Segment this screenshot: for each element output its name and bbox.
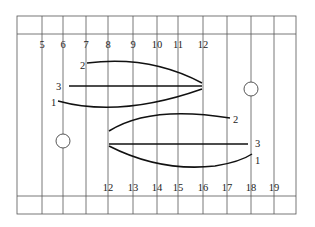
top-label: 7 [83,39,88,50]
lower-curve-2 [109,114,230,131]
bottom-label: 14 [152,182,163,193]
lower-curve-group: 231 [109,114,260,167]
upper-curve-1 [58,89,202,107]
top-label: 6 [60,39,65,50]
top-label: 11 [173,39,183,50]
upper-curve-label-1: 1 [51,97,56,108]
bottom-label: 18 [246,182,257,193]
upper-curve-2 [87,61,202,83]
lower-curve-label-2: 2 [233,114,238,125]
bottom-label: 13 [128,182,139,193]
lower-curve-label-1: 1 [255,155,260,166]
bottom-label: 12 [103,182,114,193]
lower-curve-1 [109,146,252,167]
upper-curve-label-3: 3 [56,81,61,92]
top-number-labels: 56789101112 [39,39,208,50]
bottom-label: 15 [173,182,184,193]
upper-curve-label-2: 2 [80,60,85,71]
upper-curve-group: 231 [51,60,202,108]
left-hole-icon [56,134,70,148]
bottom-label: 19 [269,182,280,193]
top-label: 10 [152,39,163,50]
bottom-label: 17 [222,182,233,193]
top-label: 5 [39,39,44,50]
ribbon-diagram: 231 231 56789101112 1213141516171819 [0,0,315,227]
bottom-label: 16 [198,182,209,193]
top-label: 9 [130,39,135,50]
lower-curve-label-3: 3 [255,138,260,149]
top-label: 12 [198,39,209,50]
bottom-number-labels: 1213141516171819 [103,182,280,193]
right-hole-icon [244,82,258,96]
top-label: 8 [105,39,110,50]
